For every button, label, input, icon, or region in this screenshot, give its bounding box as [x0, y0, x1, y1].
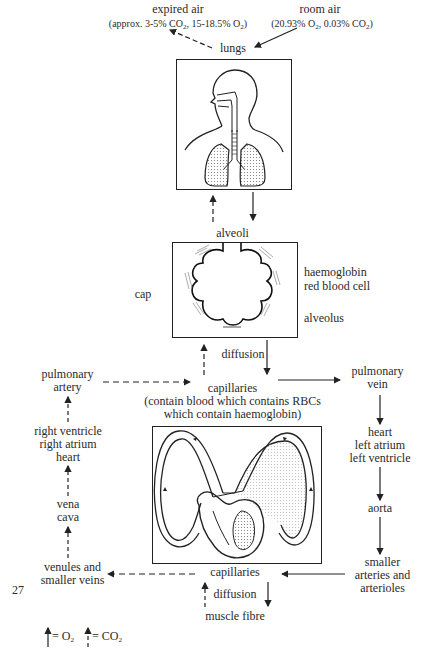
- expired-air-title: expired air: [118, 3, 238, 16]
- alveolus-label: alveolus: [304, 312, 344, 325]
- alveolus-icon: [173, 243, 296, 336]
- right-heart-label: right ventricleright atriumheart: [28, 425, 108, 464]
- pulmonary-artery-label: pulmonaryartery: [35, 368, 100, 394]
- alveoli-label: alveoli: [205, 227, 260, 240]
- heart-circulation-icon: [153, 427, 320, 562]
- muscle-fibre-label: muscle fibre: [200, 610, 270, 623]
- cap-label: cap: [128, 288, 158, 301]
- page-number: 27: [8, 584, 28, 597]
- venules-label: venules andsmaller veins: [35, 561, 110, 587]
- haemoglobin-label: haemoglobin: [304, 266, 367, 279]
- pulmonary-vein-label: pulmonaryvein: [345, 365, 410, 391]
- circulation-illustration-box: [152, 426, 322, 564]
- legend-o2: = O2: [52, 630, 74, 647]
- red-blood-cell-label: red blood cell: [304, 280, 370, 293]
- aorta-label: aorta: [360, 502, 400, 515]
- capillaries-muscle-label: capillaries: [205, 566, 265, 579]
- capillaries-lung-label: capillaries(contain blood which contains…: [130, 382, 335, 421]
- alveoli-illustration-box: [172, 242, 298, 338]
- vena-cava-label: venacava: [48, 498, 88, 524]
- diffusion-muscle-label: diffusion: [210, 588, 260, 601]
- lungs-label: lungs: [208, 42, 258, 55]
- left-heart-label: heartleft atriumleft ventricle: [340, 426, 420, 465]
- legend-co2: = CO2: [92, 630, 122, 647]
- room-air-detail: (20.93% O2, 0.03% CO2): [242, 18, 402, 33]
- respiratory-system-icon: [177, 60, 290, 188]
- room-air-title: room air: [270, 3, 370, 16]
- diffusion-lung-label: diffusion: [218, 348, 268, 361]
- arteries-label: smallerarteries andarterioles: [345, 556, 420, 595]
- lungs-illustration-box: [176, 59, 292, 190]
